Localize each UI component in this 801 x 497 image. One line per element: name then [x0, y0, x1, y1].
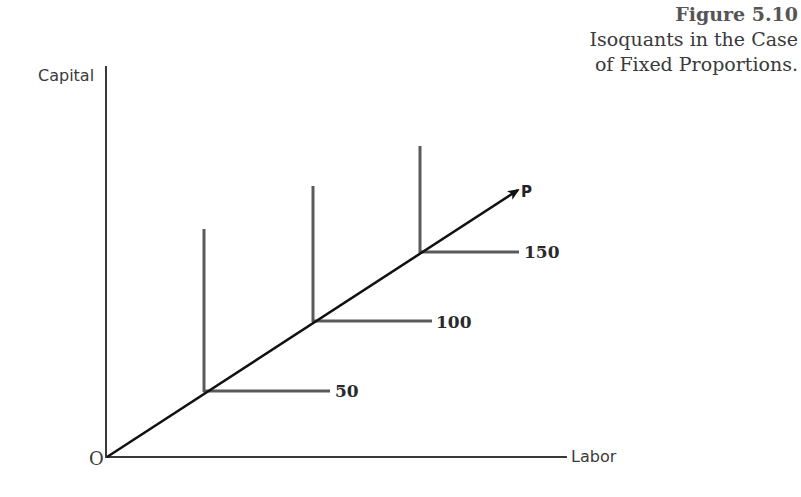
isoquant-label-150: 150	[524, 242, 560, 262]
isoquant-150: 150	[419, 146, 560, 262]
isoquant-100: 100	[312, 186, 472, 332]
isoquant-chart: Capital Labor O 50 100 150 P	[0, 0, 801, 497]
ray-label-p: P	[521, 183, 532, 201]
y-axis-label: Capital	[38, 66, 94, 85]
origin-label: O	[89, 448, 104, 469]
isoquant-label-100: 100	[436, 312, 472, 332]
x-axis-label: Labor	[571, 447, 617, 466]
isoquant-50: 50	[203, 229, 359, 401]
isoquant-label-50: 50	[335, 381, 359, 401]
